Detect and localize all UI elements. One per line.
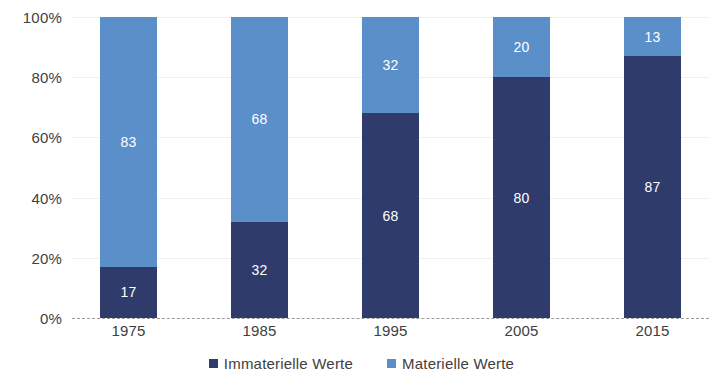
y-axis-labels: 100% 80% 60% 40% 20% 0%: [0, 17, 62, 318]
bar-segment-materielle[interactable]: 83: [100, 17, 157, 267]
bar-value-label: 20: [513, 40, 529, 54]
plot-area: 17 83 32 68: [72, 17, 709, 318]
bar-segment-immaterielle[interactable]: 87: [624, 56, 681, 318]
y-axis-tick-80: 80%: [0, 70, 62, 85]
bar-segment-immaterielle[interactable]: 80: [493, 77, 550, 318]
bar-group-2005[interactable]: 80 20: [493, 17, 550, 318]
chart-legend: Immaterielle Werte Materielle Werte: [0, 352, 723, 374]
bars-layer: 17 83 32 68: [72, 17, 709, 318]
legend-label: Materielle Werte: [402, 355, 514, 372]
bar-value-label: 68: [251, 112, 267, 126]
legend-item-immaterielle[interactable]: Immaterielle Werte: [209, 355, 353, 372]
x-axis-tick-2015: 2015: [608, 322, 698, 340]
y-axis-tick-40: 40%: [0, 190, 62, 205]
bar-group-1995[interactable]: 68 32: [362, 17, 419, 318]
bar-value-label: 83: [120, 135, 136, 149]
x-axis-labels: 1975 1985 1995 2005 2015: [72, 322, 709, 346]
y-axis-tick-100: 100%: [0, 10, 62, 25]
bar-group-2015[interactable]: 87 13: [624, 17, 681, 318]
x-axis-tick-2005: 2005: [477, 322, 567, 340]
bar-value-label: 13: [644, 30, 660, 44]
bar-value-label: 32: [251, 263, 267, 277]
bar-segment-materielle[interactable]: 20: [493, 17, 550, 77]
bar-stack: 87 13: [624, 17, 681, 318]
y-axis-tick-60: 60%: [0, 130, 62, 145]
bar-value-label: 32: [382, 58, 398, 72]
bar-segment-immaterielle[interactable]: 32: [231, 222, 288, 318]
bar-segment-materielle[interactable]: 68: [231, 17, 288, 222]
bar-value-label: 87: [644, 180, 660, 194]
x-axis-tick-1995: 1995: [346, 322, 436, 340]
bar-stack: 80 20: [493, 17, 550, 318]
legend-swatch-materielle-icon: [387, 359, 396, 368]
y-axis-tick-20: 20%: [0, 250, 62, 265]
bar-segment-materielle[interactable]: 32: [362, 17, 419, 113]
legend-label: Immaterielle Werte: [224, 355, 353, 372]
bar-segment-immaterielle[interactable]: 17: [100, 267, 157, 318]
bar-stack: 17 83: [100, 17, 157, 318]
x-axis-tick-1975: 1975: [84, 322, 174, 340]
bar-value-label: 68: [382, 209, 398, 223]
bar-segment-materielle[interactable]: 13: [624, 17, 681, 56]
bar-stack: 32 68: [231, 17, 288, 318]
bar-segment-immaterielle[interactable]: 68: [362, 113, 419, 318]
bar-value-label: 17: [120, 285, 136, 299]
axis-baseline: [72, 318, 709, 319]
bar-stack: 68 32: [362, 17, 419, 318]
x-axis-tick-1985: 1985: [215, 322, 305, 340]
bar-value-label: 80: [513, 191, 529, 205]
legend-swatch-immaterielle-icon: [209, 359, 218, 368]
legend-item-materielle[interactable]: Materielle Werte: [387, 355, 514, 372]
bar-group-1985[interactable]: 32 68: [231, 17, 288, 318]
stacked-bar-chart: 100% 80% 60% 40% 20% 0% 17 83: [0, 0, 723, 375]
bar-group-1975[interactable]: 17 83: [100, 17, 157, 318]
y-axis-tick-0: 0%: [0, 311, 62, 326]
